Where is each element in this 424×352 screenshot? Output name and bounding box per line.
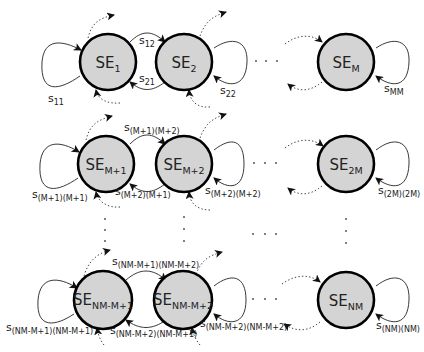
dotted-in-arrow [282,276,320,284]
vertical-ellipsis [104,216,347,244]
edge-label: s(M+1)(M+1) [32,188,88,203]
edge-label-s11: s11 [48,92,64,107]
edge-label-s22: s22 [220,84,236,99]
dotted-in-arrow [285,36,322,44]
edge-self-loop [376,142,409,186]
edge-label: s(2M)(2M) [378,184,420,199]
edge-label-s12: s12 [139,34,155,49]
edge-label: s(NM-M+2)(NM-M+2) [200,317,287,332]
edge-self-loop [214,278,246,322]
row-1: SE1 SE2 SEM s11 s12 s21 s22 sMM [42,12,409,107]
edge-label-s21: s21 [139,72,155,87]
edge-self-loop [40,144,79,188]
dotted-in-arrow [96,90,120,103]
edge-label-sMM: sMM [384,82,404,97]
edge-self-loop [376,278,409,322]
node-SE-2: SE2 [156,34,212,90]
edge-forward [130,135,165,144]
row-3: SENM-M+1 SENM-M+2 SENM s(NM-M+1)(NM-M+1)… [6,250,420,345]
edge-backward [126,320,166,328]
node-SE-NM: SENM [318,272,374,328]
row-2: SEM+1 SEM+2 SE2M s(M+1)(M+1) s(M+1)(M+2)… [32,114,420,210]
dotted-out-arrow [284,322,320,330]
dotted-out-arrow [196,252,222,274]
edge-label: s(M+1)(M+2) [124,121,180,136]
dotted-out-arrow [288,82,322,90]
edge-label: s(NM-M+1)(NM-M+2) [112,255,199,270]
edge-self-loop [38,280,77,323]
node-SE-2M: SE2M [318,136,374,192]
edge-self-loop [214,142,244,186]
node-SE-M: SEM [318,34,374,90]
node-SE-M+2: SEM+2 [156,136,212,192]
dotted-in-arrow [189,90,210,107]
dotted-out-arrow [200,114,226,138]
node-SE-M+1: SEM+1 [78,136,134,192]
dotted-in-arrow [285,140,323,148]
edge-forward [126,271,166,280]
dotted-out-arrow [288,186,322,194]
edge-self-loop-11 [42,43,81,87]
edge-self-loop-22 [214,41,247,83]
edge-self-loop-MM [376,41,409,83]
edge-label: s(M+2)(M+2) [205,184,261,199]
dotted-out-arrow [200,12,226,36]
state-transition-diagram: SE1 SE2 SEM s11 s12 s21 s22 sMM [0,0,424,352]
node-SE-NM-M+1: SENM-M+1 [73,271,133,329]
dotted-in-arrow [97,328,104,345]
node-SE-1: SE1 [80,34,136,90]
